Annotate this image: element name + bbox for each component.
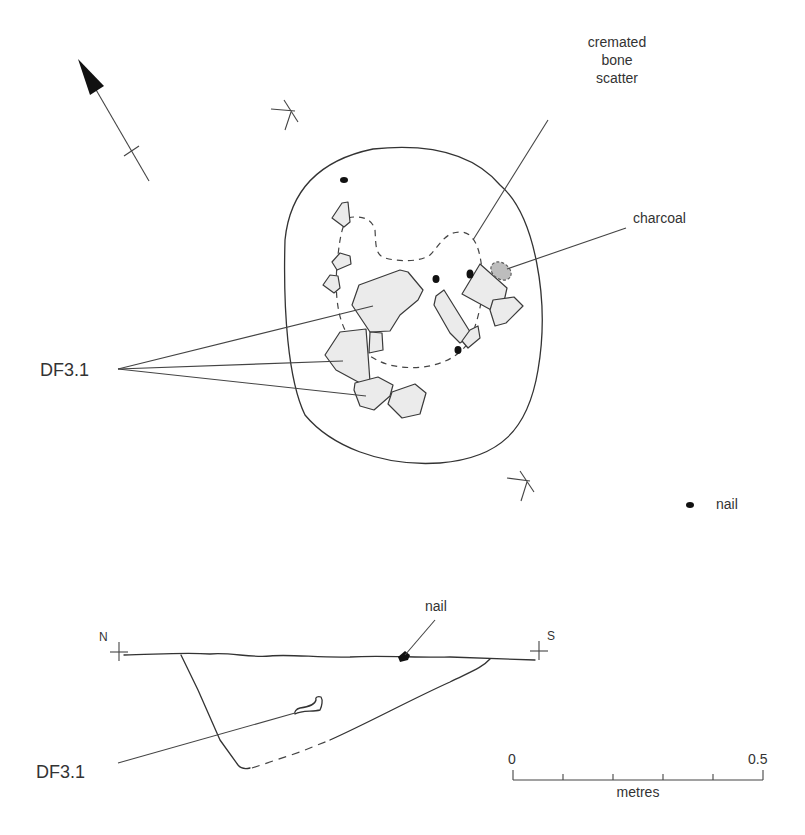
cremated-bone-label-3: scatter xyxy=(596,70,638,86)
cremated-bone-label-2: bone xyxy=(601,52,632,68)
section-marker-north xyxy=(271,100,298,130)
scale-start-label: 0 xyxy=(508,751,516,767)
charcoal-label: charcoal xyxy=(633,210,686,226)
section-north-label: N xyxy=(99,630,108,644)
scale-end-label: 0.5 xyxy=(748,751,768,767)
section-drawing xyxy=(124,651,535,769)
find-label-section: DF3.1 xyxy=(36,762,85,782)
section-marker-n xyxy=(110,642,128,661)
section-nail-leader xyxy=(405,620,435,655)
scale-bar xyxy=(513,770,763,780)
leader-lines xyxy=(118,120,626,396)
section-south-label: S xyxy=(547,629,555,643)
nail-legend-dot xyxy=(686,502,694,508)
excavation-drawing: cremated bone scatter charcoal DF3.1 nai… xyxy=(0,0,805,835)
north-arrow-icon xyxy=(78,59,149,181)
section-find-leader xyxy=(118,713,295,763)
stones xyxy=(323,202,523,418)
nail-label-plan: nail xyxy=(716,496,738,512)
nail-markers xyxy=(340,177,694,508)
section-marker-south xyxy=(507,471,534,501)
scale-unit-label: metres xyxy=(617,784,660,800)
find-label-plan: DF3.1 xyxy=(40,360,89,380)
section-nail-label: nail xyxy=(425,598,447,614)
cremated-bone-label-1: cremated xyxy=(588,34,646,50)
section-marker-s xyxy=(530,641,548,660)
